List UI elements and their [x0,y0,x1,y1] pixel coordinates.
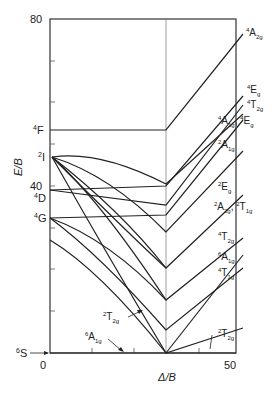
svg-text:2T2g: 2T2g [218,328,234,341]
6a1g-arrowhead [118,347,124,352]
svg-text:2Eg: 2Eg [218,181,231,194]
svg-text:6A1g: 6A1g [85,331,102,344]
y-tick-40: 40 [30,180,42,192]
svg-text:4Eg: 4Eg [247,84,260,97]
6s-arrowhead [44,351,49,355]
x-tick-0: 0 [40,359,46,371]
annotations: 2T2g 6A1g [85,311,119,344]
svg-text:4T2g: 4T2g [247,99,263,112]
svg-text:2T2g: 2T2g [103,311,119,324]
svg-text:6S: 6S [16,347,27,359]
plot-frame [50,19,236,353]
svg-text:6A1g: 6A1g [218,251,235,264]
svg-text:2I: 2I [38,151,45,163]
y-tick-80: 80 [30,13,42,25]
svg-text:4D: 4D [34,192,46,204]
right-labels: 4A2g 4Eg 4T2g 4A1g, 4Eg 2A1g 2Eg 2A2g, 2… [214,27,263,341]
svg-text:4T2g: 4T2g [218,231,234,244]
svg-text:4F: 4F [33,124,44,136]
svg-text:2A1g: 2A1g [218,139,235,152]
tanabe-sugano-diagram: 80 40 0 50 Δ/B E/B 4F 2I 4D 4G 6S 4A2g 4… [0,0,277,393]
x-tick-50: 50 [224,359,236,371]
energy-curves [50,34,243,353]
x-axis-label: Δ/B [157,371,176,383]
svg-text:4A2g: 4A2g [246,27,263,40]
y-ticks [50,61,199,353]
y-axis-label: E/B [12,158,24,176]
svg-text:2A2g, 2T1g: 2A2g, 2T1g [214,201,252,214]
right-2t2g-arrow [210,335,212,349]
svg-text:4G: 4G [34,212,46,224]
